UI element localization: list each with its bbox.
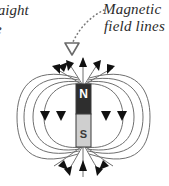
field-loop-left-2 (33, 81, 80, 150)
annotation-label-line2: field lines (104, 19, 165, 34)
arrowhead-left-mid-2 (56, 111, 66, 121)
arrowhead-right-mid-2 (117, 111, 127, 121)
caption-fragment-line1: raight (0, 3, 29, 18)
field-loop-left-3 (24, 78, 79, 153)
field-loop-right-2 (87, 81, 134, 150)
arrowhead-south-center (79, 160, 87, 171)
arrowhead-north-left-outer (52, 64, 60, 74)
annotation-pointer (65, 10, 104, 55)
magnet-north-pole-label: N (76, 88, 91, 100)
magnetic-field-diagram: raight e Magnetic field lines N S (0, 0, 169, 186)
dotted-arrowhead-icon (65, 43, 79, 55)
arrowhead-north-center (79, 57, 87, 67)
arrowhead-north-right-outer (107, 64, 115, 74)
arrowhead-left-mid-1 (40, 111, 50, 121)
caption-fragment-line2: e (0, 22, 2, 37)
dotted-arrow-path (72, 10, 104, 44)
annotation-label-line1: Magnetic (103, 2, 161, 17)
magnet-south-pole-label: S (76, 129, 91, 140)
arrowhead-right-mid-1 (101, 111, 111, 121)
field-loop-right-3 (88, 78, 143, 153)
